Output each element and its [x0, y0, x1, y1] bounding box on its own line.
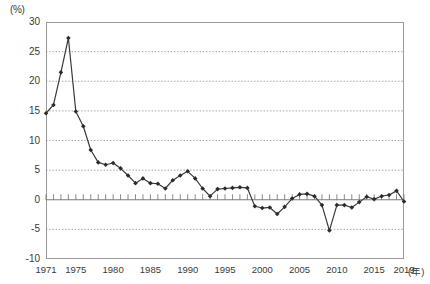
y-axis-tick-label: 5 — [8, 164, 40, 175]
data-point-marker — [379, 194, 384, 199]
y-axis-tick-label: 15 — [8, 105, 40, 116]
x-axis-tick-label: 2010 — [320, 264, 354, 275]
y-axis-tick-label: 0 — [8, 194, 40, 205]
data-series-line — [46, 38, 404, 231]
x-axis-tick-marks — [46, 194, 404, 200]
data-point-marker — [245, 186, 250, 191]
data-point-marker — [230, 186, 235, 191]
x-axis-tick-label: 2005 — [283, 264, 317, 275]
data-point-marker — [305, 192, 310, 197]
data-point-marker — [59, 70, 64, 75]
x-axis-tick-label: 1975 — [59, 264, 93, 275]
data-point-marker — [81, 124, 86, 129]
gridlines — [46, 52, 404, 230]
chart-svg — [0, 0, 430, 284]
y-axis-tick-label: -5 — [8, 223, 40, 234]
y-axis-tick-label: 10 — [8, 135, 40, 146]
x-axis-tick-label: 2000 — [245, 264, 279, 275]
y-axis-tick-label: 25 — [8, 46, 40, 57]
data-point-markers — [44, 36, 407, 233]
x-axis-tick-label: 1985 — [133, 264, 167, 275]
y-axis-tick-label: -10 — [8, 253, 40, 264]
data-point-marker — [103, 162, 108, 167]
data-point-marker — [238, 185, 243, 190]
line-chart: (%) 302520151050-5-10 197119751980198519… — [0, 0, 430, 284]
data-point-marker — [260, 206, 265, 211]
data-point-marker — [387, 193, 392, 198]
data-point-marker — [66, 36, 71, 41]
data-point-marker — [327, 228, 332, 233]
x-axis-tick-label: 1980 — [96, 264, 130, 275]
x-axis-tick-label: 1995 — [208, 264, 242, 275]
data-point-marker — [342, 203, 347, 208]
y-axis-tick-label: 30 — [8, 16, 40, 27]
data-point-marker — [372, 197, 377, 202]
data-point-marker — [335, 203, 340, 208]
data-point-marker — [253, 204, 258, 209]
x-axis-tick-label: 1990 — [171, 264, 205, 275]
data-point-marker — [223, 186, 228, 191]
x-axis-unit-label: (年) — [408, 264, 424, 278]
data-point-marker — [297, 192, 302, 197]
y-axis-tick-label: 20 — [8, 75, 40, 86]
data-point-marker — [74, 109, 79, 114]
